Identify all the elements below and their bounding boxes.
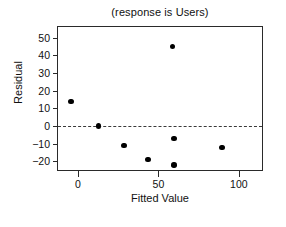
y-tick-label: −10 — [32, 138, 50, 149]
chart-title: (response is Users) — [57, 6, 263, 19]
x-axis-title: Fitted Value — [57, 192, 263, 205]
x-tick-mark — [158, 171, 159, 177]
y-tick-mark — [53, 55, 58, 56]
y-tick-label: 30 — [38, 67, 50, 78]
y-tick-label: 40 — [38, 50, 50, 61]
y-tick-label: −20 — [32, 156, 50, 167]
x-tick-label: 50 — [153, 178, 165, 190]
data-point — [171, 162, 176, 167]
y-tick-mark — [53, 144, 58, 145]
residual-plot-figure: (response is Users) −20−1001020304050 05… — [0, 0, 286, 227]
y-tick-label: 0 — [44, 121, 50, 132]
x-tick-label: 0 — [75, 178, 81, 190]
y-axis-title: Residual — [12, 43, 25, 123]
data-point — [170, 44, 175, 49]
zero-reference-line — [58, 126, 262, 127]
data-point — [145, 157, 150, 162]
y-tick-mark — [53, 126, 58, 127]
y-tick-mark — [53, 73, 58, 74]
x-tick-label: 100 — [230, 178, 248, 190]
data-point — [171, 136, 176, 141]
y-tick-label: 20 — [38, 85, 50, 96]
y-tick-mark — [53, 161, 58, 162]
x-tick-mark — [239, 171, 240, 177]
plot-frame: −20−1001020304050 — [57, 26, 263, 171]
data-point — [121, 143, 126, 148]
y-tick-mark — [53, 38, 58, 39]
y-tick-mark — [53, 108, 58, 109]
y-tick-label: 10 — [38, 103, 50, 114]
data-point — [96, 123, 101, 128]
plot-area — [58, 27, 262, 170]
y-tick-mark — [53, 91, 58, 92]
y-tick-label: 50 — [38, 32, 50, 43]
data-point — [219, 145, 224, 150]
data-point — [68, 99, 73, 104]
x-tick-mark — [78, 171, 79, 177]
